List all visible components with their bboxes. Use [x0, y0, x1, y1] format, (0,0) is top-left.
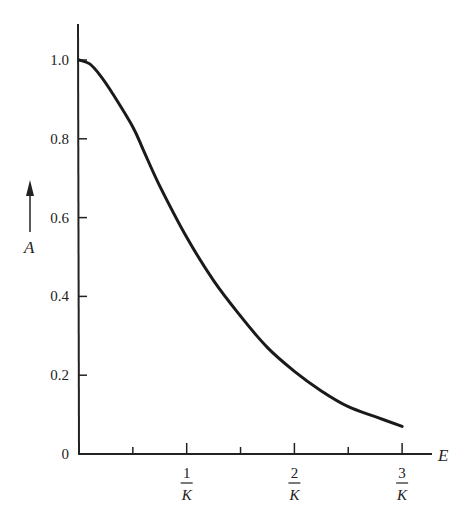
x-tick-label: 1K: [181, 465, 193, 503]
y-tick-label: 1.0: [50, 52, 69, 68]
axes: [78, 24, 432, 455]
chart: 00.20.40.60.81.0 1K2K3K A E: [0, 0, 473, 531]
y-tick-label: 0.6: [50, 210, 69, 226]
y-label-text: A: [23, 238, 35, 257]
y-tick-label: 0.2: [50, 367, 69, 383]
y-axis: [78, 24, 79, 455]
x-tick-numerator: 3: [398, 465, 406, 481]
y-ticks: 00.20.40.60.81.0: [50, 52, 87, 462]
x-ticks: 1K2K3K: [133, 443, 408, 503]
arrowhead-icon: [26, 180, 34, 196]
x-tick-denominator: K: [288, 487, 300, 503]
x-tick-numerator: 2: [291, 465, 299, 481]
x-tick-denominator: K: [181, 487, 193, 503]
y-axis-label: A: [23, 180, 35, 257]
y-tick-label: 0.4: [50, 288, 69, 304]
x-tick-numerator: 1: [183, 465, 191, 481]
x-tick-label: 2K: [288, 465, 300, 503]
y-tick-label: 0.8: [50, 131, 69, 147]
x-axis-label: E: [437, 446, 449, 465]
data-curve: [79, 60, 402, 426]
x-tick-denominator: K: [396, 487, 408, 503]
x-tick-label: 3K: [396, 465, 408, 503]
y-tick-label: 0: [62, 446, 70, 462]
